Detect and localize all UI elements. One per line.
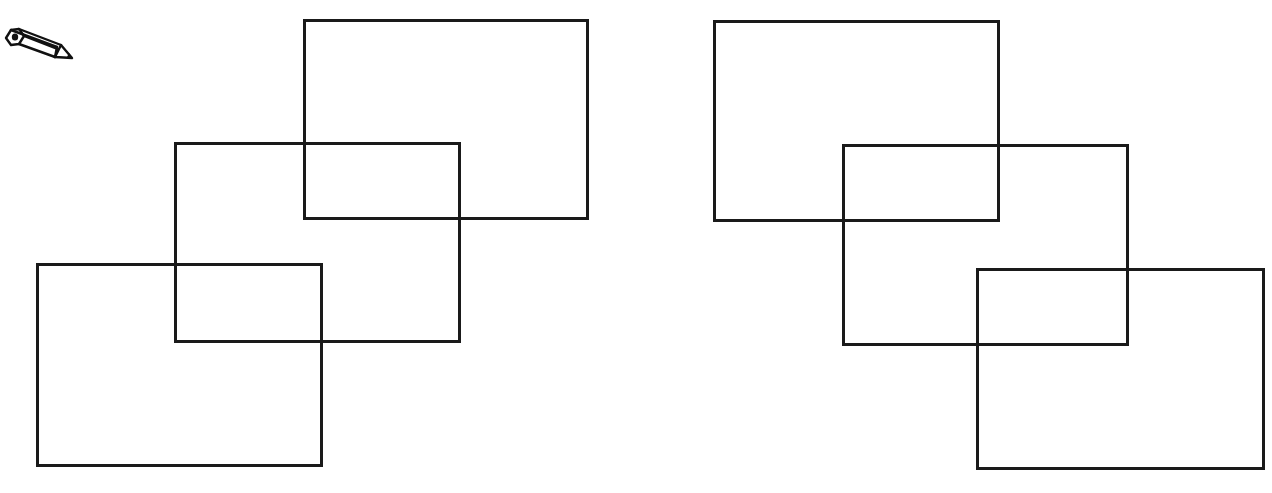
rectangle-left-bottom (36, 263, 323, 467)
rectangle-right-bottom (976, 268, 1265, 470)
diagram-canvas: Two groups of three overlapping outlined… (0, 0, 1272, 493)
pencil-icon (3, 26, 75, 60)
